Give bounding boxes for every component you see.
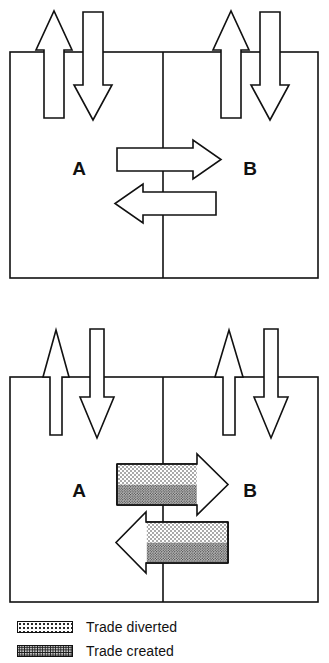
upper-label-a: A bbox=[72, 158, 86, 179]
legend-item-diverted: Trade diverted bbox=[0, 615, 329, 639]
legend-label-created: Trade created bbox=[86, 644, 174, 658]
trade-creation-diversion-diagram: A B bbox=[0, 0, 329, 663]
lower-label-a: A bbox=[72, 480, 86, 501]
legend: Trade diverted Trade created bbox=[0, 615, 329, 663]
legend-label-diverted: Trade diverted bbox=[86, 620, 177, 634]
upper-label-b: B bbox=[243, 158, 257, 179]
legend-swatch-created-icon bbox=[17, 645, 73, 657]
upper-panel: A B bbox=[10, 11, 318, 278]
lower-arrow-a-to-b-band-created bbox=[118, 485, 197, 504]
diagram-canvas: A B bbox=[0, 0, 329, 615]
lower-panel: A B bbox=[10, 329, 318, 602]
lower-label-b: B bbox=[243, 480, 257, 501]
lower-arrow-a-to-b-band-diverted bbox=[118, 465, 197, 485]
legend-swatch-diverted-icon bbox=[17, 621, 73, 633]
legend-item-created: Trade created bbox=[0, 639, 329, 663]
lower-arrow-b-to-a-band-created bbox=[147, 543, 227, 562]
lower-arrow-b-to-a-band-diverted bbox=[147, 523, 227, 543]
